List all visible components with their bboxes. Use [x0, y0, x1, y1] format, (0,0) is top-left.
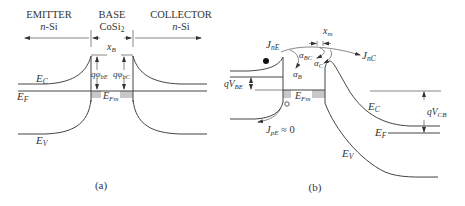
ef-label: EF [374, 126, 387, 140]
base-right-wall [325, 61, 330, 103]
collector-title: COLLECTOR [150, 9, 212, 20]
efm-label: EFm [102, 90, 118, 103]
electron-icon [263, 58, 269, 64]
collector-material: n-Si [172, 21, 190, 32]
metal-filled-states-right [120, 91, 133, 98]
ev-collector-curve [325, 103, 438, 177]
base-title: BASE [99, 9, 126, 20]
alpha-bc-arrow [317, 48, 324, 58]
ev-label: EV [35, 134, 49, 148]
jnc-label: JnC [362, 49, 377, 63]
ev-collector-curve [133, 100, 207, 134]
ev-emitter-curve [18, 100, 91, 134]
hole-icon [285, 102, 289, 106]
panel-a: EMITTER n-Si BASE CoSi2 COLLECTOR n-Si x… [16, 9, 212, 192]
phi-bc-label: qφbC [113, 69, 131, 80]
ef-label: EF [16, 90, 29, 104]
ec-emitter-curve [18, 56, 91, 84]
emitter-material: n-Si [40, 21, 58, 32]
vcb-label: qVCB [427, 107, 447, 119]
emitter-title: EMITTER [26, 9, 72, 20]
alpha-b-label: αB [293, 69, 302, 80]
jpe-arrow [258, 108, 281, 122]
phi-be-label: qφbE [91, 69, 108, 80]
metal-filled-states-left [91, 91, 101, 98]
ec-collector-curve [330, 61, 440, 126]
alpha-c-label: αC [314, 58, 324, 69]
efm-label: EFm [294, 90, 310, 103]
metal-filled-states-left [283, 90, 291, 98]
xm-label: xm [322, 25, 333, 38]
alpha-b-arrow [290, 50, 298, 68]
vbe-label: qVBE [224, 79, 244, 91]
xb-label: xB [106, 41, 116, 54]
metal-filled-states-right [312, 90, 325, 98]
ec-emitter-curve [230, 57, 283, 71]
ec-label: EC [367, 100, 381, 114]
ec-label: EC [35, 72, 49, 86]
ec-collector-curve [133, 56, 207, 84]
band-diagram-figure: EMITTER n-Si BASE CoSi2 COLLECTOR n-Si x… [0, 0, 465, 206]
base-material: CoSi2 [100, 21, 125, 34]
panel-b: qVBE qVCB JnE JnC αB αBC αC xm JpE ≈ 0 E… [224, 25, 447, 194]
caption-b: (b) [309, 181, 322, 194]
alpha-bc-label: αBC [299, 50, 313, 61]
ev-label: EV [341, 147, 355, 161]
jpe-label: JpE ≈ 0 [266, 124, 295, 137]
ev-emitter-curve [230, 102, 283, 119]
caption-a: (a) [95, 179, 108, 192]
jne-label: JnE [266, 38, 280, 52]
